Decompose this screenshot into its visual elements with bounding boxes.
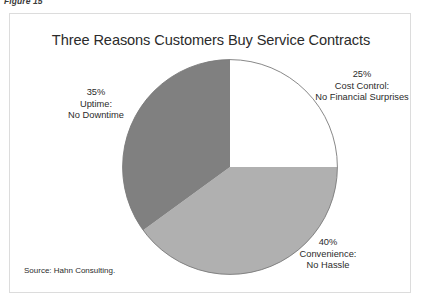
pie-label-uptime: 35% Uptime: No Downtime <box>10 87 182 122</box>
pie-label-cost-control-percent: 25% <box>272 69 425 81</box>
figure-caption: Figure 15 <box>4 0 43 6</box>
pie-label-uptime-line1: Uptime: <box>10 99 182 111</box>
pie-label-convenience: 40% Convenience: No Hassle <box>240 237 416 272</box>
pie-label-convenience-line1: Convenience: <box>240 249 416 261</box>
pie-label-uptime-line2: No Downtime <box>10 110 182 122</box>
chart-title: Three Reasons Customers Buy Service Cont… <box>10 32 412 48</box>
pie-label-uptime-percent: 35% <box>10 87 182 99</box>
source-note: Source: Hahn Consulting. <box>24 266 115 275</box>
pie-label-cost-control-line1: Cost Control: <box>272 81 425 93</box>
pie-label-convenience-line2: No Hassle <box>240 260 416 272</box>
chart-frame: Three Reasons Customers Buy Service Cont… <box>9 13 411 293</box>
pie-label-cost-control: 25% Cost Control: No Financial Surprises <box>272 69 425 104</box>
pie-label-cost-control-line2: No Financial Surprises <box>272 92 425 104</box>
pie-label-convenience-percent: 40% <box>240 237 416 249</box>
